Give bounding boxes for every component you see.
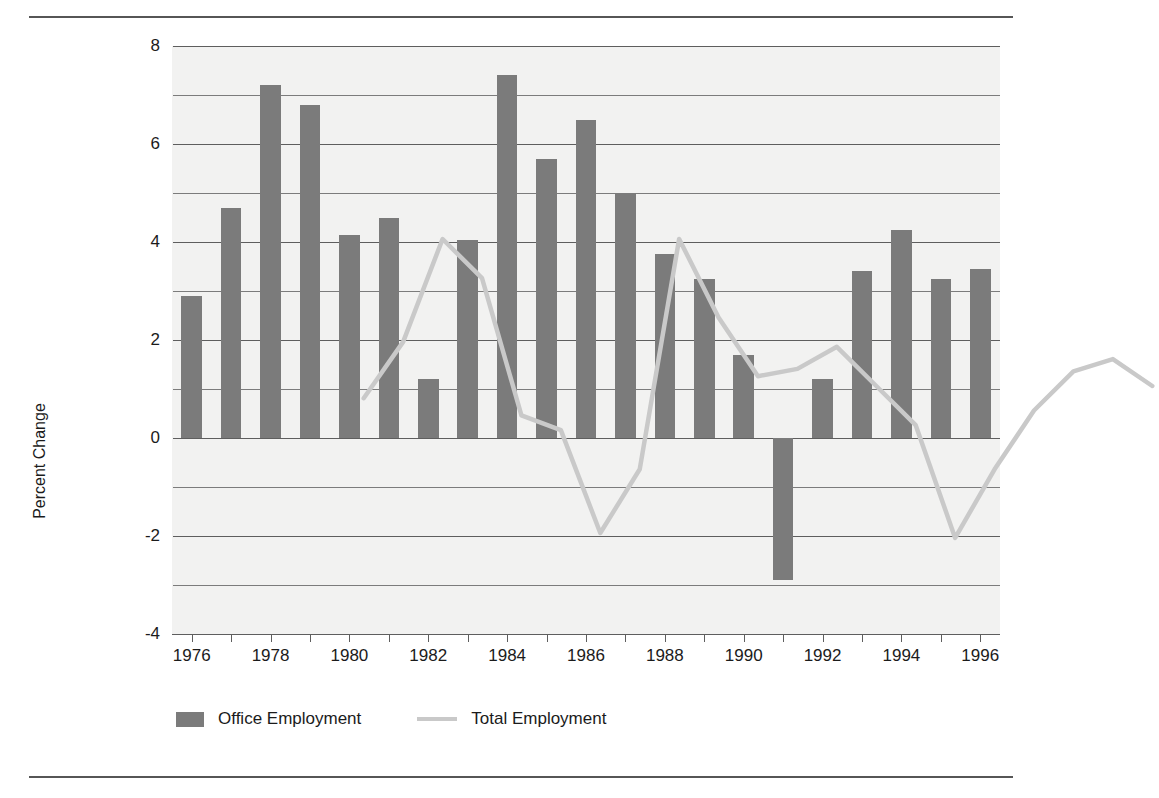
bar-1976 [181, 296, 202, 438]
y-tick-label: 0 [130, 429, 160, 446]
bar-1983 [457, 240, 478, 438]
legend-label-office-employment: Office Employment [218, 709, 361, 729]
legend-bar-swatch-icon [176, 712, 204, 727]
x-tick [192, 635, 193, 642]
x-tick [428, 635, 429, 642]
x-tick [507, 635, 508, 642]
x-tick [310, 635, 311, 642]
x-tick [349, 635, 350, 642]
gridline [172, 95, 1000, 96]
x-tick [941, 635, 942, 642]
x-tick-label-1988: 1988 [630, 646, 700, 666]
bar-1992 [812, 379, 833, 438]
bar-1978 [260, 85, 281, 438]
bar-1996 [970, 269, 991, 438]
plot-area [172, 46, 1000, 634]
bar-1988 [655, 254, 676, 438]
x-tick [704, 635, 705, 642]
x-tick [823, 635, 824, 642]
x-tick [586, 635, 587, 642]
x-tick-label-1990: 1990 [709, 646, 779, 666]
x-tick [625, 635, 626, 642]
gridline [172, 536, 1000, 537]
bar-1989 [694, 279, 715, 438]
bar-1982 [418, 379, 439, 438]
bar-1985 [536, 159, 557, 438]
bar-1986 [576, 120, 597, 439]
bar-1981 [379, 218, 400, 439]
bar-1991 [773, 438, 794, 580]
x-tick [862, 635, 863, 642]
bar-1979 [300, 105, 321, 438]
x-tick-label-1986: 1986 [551, 646, 621, 666]
bar-1980 [339, 235, 360, 438]
x-tick [547, 635, 548, 642]
x-tick-label-1992: 1992 [788, 646, 858, 666]
bottom-rule [29, 776, 1013, 778]
x-tick [231, 635, 232, 642]
bar-1977 [221, 208, 242, 438]
x-tick [744, 635, 745, 642]
x-tick-label-1984: 1984 [472, 646, 542, 666]
y-axis-line [172, 46, 173, 635]
x-tick-label-1996: 1996 [945, 646, 1015, 666]
y-tick-label: -4 [130, 625, 160, 642]
bar-1987 [615, 193, 636, 438]
gridline [172, 438, 1000, 439]
x-tick-label-1976: 1976 [157, 646, 227, 666]
legend: Office Employment Total Employment [176, 706, 662, 732]
bar-1990 [733, 355, 754, 438]
x-tick [901, 635, 902, 642]
gridline [172, 46, 1000, 47]
bar-1984 [497, 75, 518, 438]
x-tick-label-1994: 1994 [866, 646, 936, 666]
top-rule [29, 16, 1013, 18]
gridline [172, 585, 1000, 586]
x-tick-label-1982: 1982 [393, 646, 463, 666]
x-tick-label-1978: 1978 [236, 646, 306, 666]
bar-1995 [931, 279, 952, 438]
legend-line-swatch-icon [417, 717, 457, 721]
bar-1994 [891, 230, 912, 438]
legend-label-total-employment: Total Employment [471, 709, 606, 729]
y-tick-label: 6 [130, 135, 160, 152]
y-tick-label: 4 [130, 233, 160, 250]
x-tick [271, 635, 272, 642]
x-tick-label-1980: 1980 [314, 646, 384, 666]
legend-item-total-employment: Total Employment [417, 709, 606, 729]
x-tick [980, 635, 981, 642]
y-tick-label: 2 [130, 331, 160, 348]
x-tick [665, 635, 666, 642]
bar-1993 [852, 271, 873, 438]
legend-item-office-employment: Office Employment [176, 709, 361, 729]
y-tick-label: -2 [130, 527, 160, 544]
y-axis-tick-labels: 86420-2-4 [124, 0, 160, 798]
x-tick [389, 635, 390, 642]
x-tick [468, 635, 469, 642]
x-tick [783, 635, 784, 642]
y-axis-title: Percent Change [31, 381, 49, 541]
gridline [172, 487, 1000, 488]
y-tick-label: 8 [130, 37, 160, 54]
